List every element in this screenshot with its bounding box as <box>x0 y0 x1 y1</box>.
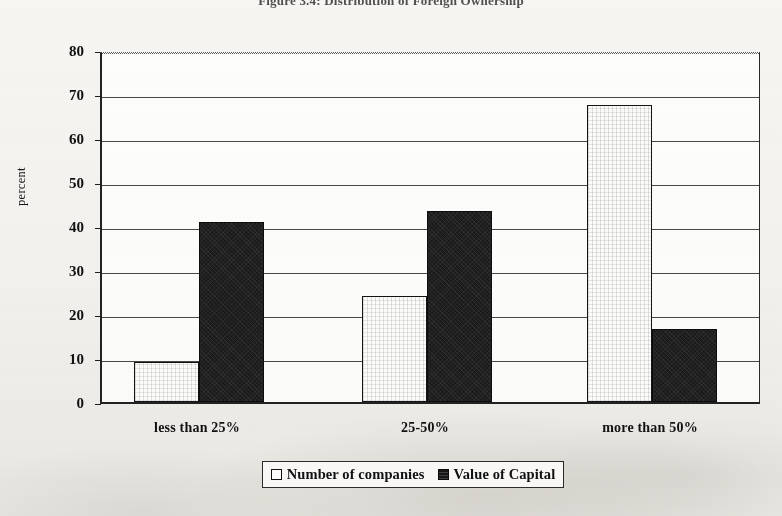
gridline-60 <box>102 141 759 142</box>
y-tick-label-50: 50 <box>48 176 84 191</box>
bar-value-of-capital-3 <box>652 329 717 402</box>
bar-number-of-companies-3 <box>587 105 652 402</box>
legend-swatch-black-icon <box>438 469 449 480</box>
bar-number-of-companies-1 <box>134 362 199 402</box>
y-tick-label-20: 20 <box>48 308 84 323</box>
legend-label-1: Number of companies <box>287 466 425 483</box>
bar-value-of-capital-2 <box>427 211 492 402</box>
chart-legend: Number of companiesValue of Capital <box>262 461 564 488</box>
gridline-70 <box>102 97 759 98</box>
x-tick-label-1: less than 25% <box>154 420 240 436</box>
y-tick-label-30: 30 <box>48 264 84 279</box>
plot-area <box>100 52 760 404</box>
y-tick-label-60: 60 <box>48 132 84 147</box>
legend-entry-2: Value of Capital <box>438 466 556 483</box>
legend-entry-1: Number of companies <box>271 466 425 483</box>
bar-number-of-companies-2 <box>362 296 427 402</box>
y-tick-label-80: 80 <box>48 44 84 59</box>
y-tick-label-70: 70 <box>48 88 84 103</box>
y-axis-title: percent <box>14 167 29 206</box>
bar-value-of-capital-1 <box>199 222 264 402</box>
gridline-80 <box>102 53 759 54</box>
legend-label-2: Value of Capital <box>454 466 556 483</box>
y-tick-label-40: 40 <box>48 220 84 235</box>
x-tick-label-2: 25-50% <box>401 420 449 436</box>
y-tick-label-0: 0 <box>48 396 84 411</box>
y-tick-mark-0 <box>95 404 101 405</box>
legend-swatch-white-icon <box>271 469 282 480</box>
gridline-50 <box>102 185 759 186</box>
y-tick-label-10: 10 <box>48 352 84 367</box>
x-tick-label-3: more than 50% <box>602 420 698 436</box>
bar-chart: percent 01020304050607080 less than 25%2… <box>0 0 782 516</box>
